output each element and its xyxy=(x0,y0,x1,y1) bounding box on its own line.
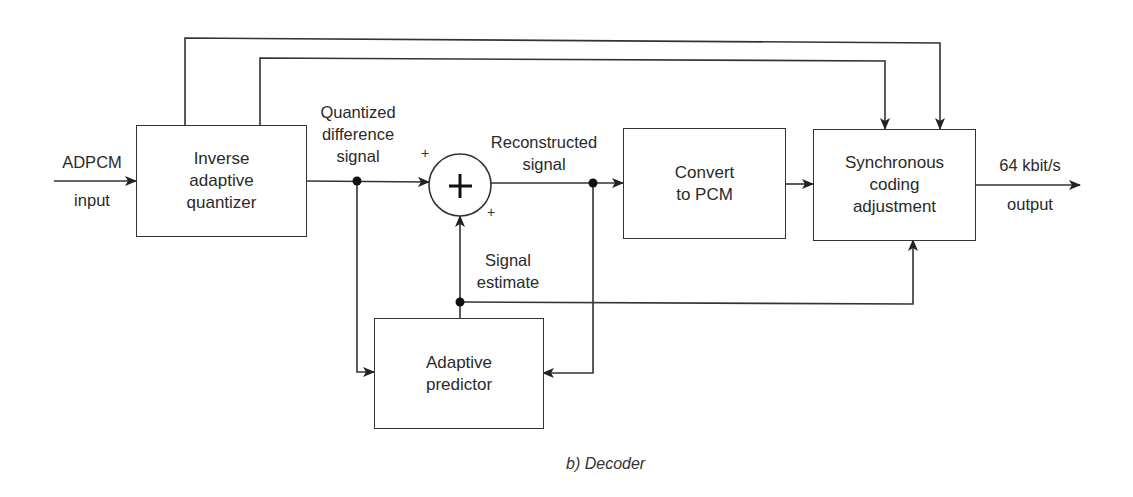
adaptive-predictor-label: Adaptive predictor xyxy=(426,352,492,396)
inverse-adaptive-quantizer-label: Inverse adaptive quantizer xyxy=(187,148,257,214)
inverse-adaptive-quantizer-block: Inverse adaptive quantizer xyxy=(136,125,307,237)
adaptive-predictor-block: Adaptive predictor xyxy=(374,318,544,429)
summer-plus-sign-bottom: + xyxy=(487,204,495,220)
signal-estimate-label: Signal estimate xyxy=(463,249,553,293)
output-rate-label: 64 kbit/s xyxy=(975,154,1085,176)
adpcm-input-label-bottom: input xyxy=(52,189,132,211)
output-label: output xyxy=(975,193,1085,215)
figure-caption: b) Decoder xyxy=(566,455,645,473)
convert-to-pcm-label: Convert to PCM xyxy=(675,162,735,206)
signal-wires xyxy=(0,0,1133,497)
convert-to-pcm-block: Convert to PCM xyxy=(623,128,786,239)
reconstructed-signal-label: Reconstructed signal xyxy=(474,131,614,175)
adpcm-input-label-top: ADPCM xyxy=(52,151,132,173)
synchronous-coding-adjustment-label: Synchronous coding adjustment xyxy=(845,152,944,218)
summer-plus-sign-left: + xyxy=(421,145,429,161)
quantized-difference-signal-label: Quantized difference signal xyxy=(308,101,408,167)
synchronous-coding-adjustment-block: Synchronous coding adjustment xyxy=(813,129,976,241)
